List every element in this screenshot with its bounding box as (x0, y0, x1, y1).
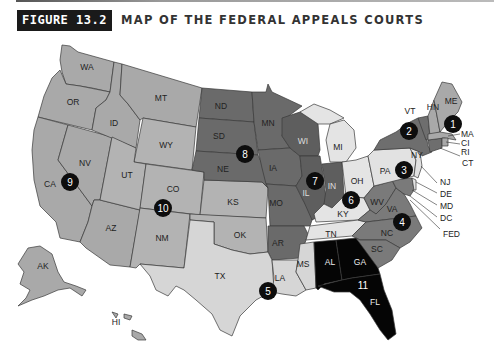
circuit-marker-5[interactable]: 5 (259, 282, 277, 300)
label-tx: TX (215, 271, 226, 281)
circuit-marker-1[interactable]: 1 (444, 115, 462, 133)
label-hi: HI (112, 317, 121, 327)
circuit-marker-9[interactable]: 9 (61, 173, 79, 191)
callout-ct: CT (462, 158, 473, 168)
label-mt: MT (155, 93, 167, 103)
circuit-marker-3[interactable]: 3 (395, 161, 413, 179)
label-wi: WI (298, 136, 308, 146)
label-id: ID (110, 118, 119, 128)
label-co: CO (167, 184, 180, 194)
label-ne: NE (217, 164, 229, 174)
label-pa: PA (380, 166, 391, 176)
label-ak: AK (37, 261, 49, 271)
label-nd: ND (215, 101, 227, 111)
svg-text:10: 10 (157, 203, 169, 214)
label-la: LA (275, 273, 286, 283)
circuit-marker-4[interactable]: 4 (393, 213, 411, 231)
label-ms: MS (297, 259, 310, 269)
label-ny: NY (411, 150, 423, 160)
label-al: AL (325, 257, 336, 267)
circuit-marker-8[interactable]: 8 (236, 145, 254, 163)
svg-text:1: 1 (450, 119, 456, 130)
label-wy: WY (159, 140, 173, 150)
svg-text:5: 5 (265, 286, 271, 297)
callout-dc: DC (440, 213, 452, 223)
circuit-1-region (428, 82, 462, 146)
label-mn: MN (261, 118, 274, 128)
circuit-marker-11[interactable]: 11 (358, 280, 369, 291)
callout-de: DE (440, 189, 452, 199)
callout-md: MD (440, 201, 453, 211)
label-oh: OH (351, 176, 364, 186)
label-ut: UT (121, 170, 132, 180)
circuit-marker-7[interactable]: 7 (306, 172, 324, 190)
state-mi[interactable] (326, 120, 356, 162)
state-ct[interactable] (428, 138, 442, 152)
label-ok: OK (234, 230, 247, 240)
svg-text:3: 3 (401, 165, 407, 176)
label-ga: GA (354, 257, 367, 267)
label-ky: KY (337, 209, 349, 219)
svg-text:6: 6 (348, 195, 354, 206)
label-nm: NM (155, 233, 168, 243)
label-az: AZ (106, 223, 117, 233)
label-ia: IA (269, 163, 277, 173)
svg-text:9: 9 (67, 177, 73, 188)
state-ak[interactable] (18, 246, 86, 306)
svg-text:7: 7 (312, 176, 318, 187)
svg-text:8: 8 (242, 149, 248, 160)
callout-fed: FED (443, 229, 460, 239)
label-ks: KS (227, 197, 239, 207)
label-ar: AR (272, 238, 284, 248)
label-fl: FL (370, 297, 380, 307)
circuit-marker-2[interactable]: 2 (400, 122, 418, 140)
label-il: IL (302, 188, 309, 198)
circuit-marker-6[interactable]: 6 (342, 191, 360, 209)
svg-text:4: 4 (399, 217, 405, 228)
label-nv: NV (79, 158, 91, 168)
label-wv: WV (370, 197, 384, 207)
label-va: VA (387, 204, 398, 214)
label-wa: WA (80, 62, 94, 72)
label-vt: VT (405, 106, 416, 116)
label-mi: MI (333, 142, 342, 152)
label-ca: CA (44, 179, 56, 189)
label-tn: TN (325, 229, 336, 239)
label-nc: NC (381, 228, 393, 238)
label-me: ME (445, 96, 458, 106)
label-sc: SC (371, 244, 383, 254)
circuit-marker-10[interactable]: 10 (154, 199, 172, 217)
callout-ri: RI (461, 147, 470, 157)
svg-text:2: 2 (406, 126, 412, 137)
label-or: OR (67, 97, 80, 107)
callout-nj: NJ (440, 177, 450, 187)
label-mo: MO (269, 198, 283, 208)
label-nh: HN (427, 102, 439, 112)
label-sd: SD (213, 131, 225, 141)
us-map: WA OR CA NV ID MT AZ AK HI WY UT CO NM K… (0, 0, 494, 354)
label-in: IN (328, 181, 337, 191)
